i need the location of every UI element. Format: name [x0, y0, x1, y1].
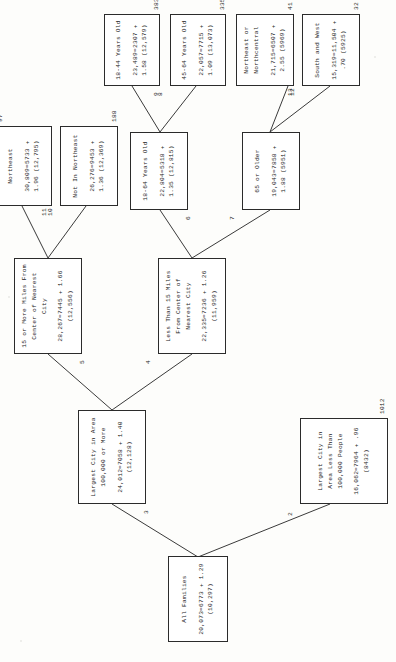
node-title: 65 or Older: [253, 149, 263, 193]
tree-node-45-64-years-old[interactable]: 45-64 Years Old 22,057=7715 + 1.09 (13,0…: [170, 14, 226, 86]
branch-number-7: 7: [230, 216, 236, 220]
node-stat: 26,276=9453 + 1.36 (12,369): [88, 131, 107, 201]
edge-7-13: [270, 86, 288, 132]
node-stat: 23,489=2307 + 1.58 (12,579): [131, 19, 150, 81]
rotated-diagram-wrapper: All Families 20,073=6773 + 1.29 (10,297)…: [0, 0, 396, 662]
node-title: Largest City in Area 100,000 or More: [89, 415, 108, 499]
tree-node-less-than-15-miles[interactable]: Less Than 15 Miles From Center of Neares…: [158, 258, 226, 354]
branch-number-13: 13: [288, 88, 294, 96]
count-label-13: 41: [288, 2, 294, 10]
node-title: Not In Northeast: [71, 134, 81, 197]
tree-node-18-44-years-old[interactable]: 18-44 Years Old 23,489=2307 + 1.58 (12,5…: [104, 14, 160, 86]
count-label-8: 335: [220, 0, 226, 10]
node-stat: 22,335=7236 + 1.26 (11,959): [200, 263, 219, 349]
count-label-2: 1012: [380, 398, 386, 414]
node-stat: 24,012=7058 + 1.40 (12,128): [116, 415, 135, 499]
branch-number-3: 3: [144, 510, 150, 514]
tree-node-largest-city-under-100k[interactable]: Largest City in Area Less Than 100,000 P…: [300, 418, 388, 504]
node-stat: 19,043=7858 + 1.88 (5951): [270, 137, 289, 205]
tree-node-northeast[interactable]: Northeast 30,809=5733 + 1.96 (12,795): [0, 126, 52, 206]
node-title: 45-64 Years Old: [180, 20, 190, 79]
edge-1-3: [112, 504, 198, 557]
branch-number-6: 6: [186, 216, 192, 220]
edge-7-12: [270, 86, 330, 132]
node-stat: 21,715=6507 + 2.55 (5969): [269, 19, 288, 81]
node-title: Less Than 15 Miles From Center of Neares…: [164, 263, 193, 349]
node-title: 18-44 Years Old: [114, 20, 124, 79]
tree-node-65-or-older[interactable]: 65 or Older 19,043=7858 + 1.88 (5951): [242, 132, 300, 210]
tree-node-18-64-years-old[interactable]: 18-64 Years Old 22,804=5318 + 1.35 (12,8…: [130, 132, 188, 210]
scan-speck: [8, 296, 10, 298]
tree-node-south-and-west[interactable]: South and West 15,319=11,504 + .70 (5925…: [302, 14, 360, 86]
node-title: 18-64 Years Old: [141, 141, 151, 200]
node-stat: 20,073=6773 + 1.29 (10,297): [197, 561, 216, 637]
count-label-12: 32: [354, 2, 360, 10]
node-title: All Families: [180, 575, 190, 623]
scan-speck: [20, 640, 22, 642]
branch-number-10: 10: [48, 208, 54, 216]
node-title: Northeast or Northcentral: [242, 19, 261, 81]
scan-speck: [374, 56, 376, 58]
edge-1-2: [198, 504, 330, 557]
count-label-10: 188: [112, 110, 118, 122]
node-stat: 28,267=7445 + 1.66 (12,556): [56, 263, 75, 349]
count-label-9: 383: [154, 0, 160, 10]
node-stat: 15,319=11,504 + .70 (5925): [330, 19, 349, 81]
branch-number-4: 4: [146, 360, 152, 364]
node-stat: 22,057=7715 + 1.09 (13,073): [197, 19, 216, 81]
tree-node-15-or-more-miles[interactable]: 15 or More Miles From Center of Nearest …: [14, 258, 82, 354]
node-title: Largest City in Area Less Than 100,000 P…: [316, 423, 345, 499]
count-label-11: 97: [0, 114, 4, 122]
branch-number-9: 9: [154, 92, 160, 96]
tree-node-northeast-or-northcentral[interactable]: Northeast or Northcentral 21,715=6507 + …: [236, 14, 294, 86]
node-title: Northeast: [6, 148, 16, 184]
page-canvas: All Families 20,073=6773 + 1.29 (10,297)…: [0, 0, 396, 662]
node-stat: 30,809=5733 + 1.96 (12,795): [23, 131, 42, 201]
tree-node-all-families[interactable]: All Families 20,073=6773 + 1.29 (10,297): [168, 556, 228, 642]
node-title: 15 or More Miles From Center of Nearest …: [20, 263, 49, 349]
branch-number-2: 2: [288, 512, 294, 516]
node-stat: 22,804=5318 + 1.35 (12,815): [158, 137, 177, 205]
node-title: South and West: [313, 22, 323, 77]
branch-number-11: 11: [42, 208, 48, 216]
edge-6-8: [160, 86, 196, 132]
branch-number-5: 5: [80, 360, 86, 364]
tree-node-not-in-northeast[interactable]: Not In Northeast 26,276=9453 + 1.36 (12,…: [60, 126, 118, 206]
tree-node-largest-city-100k-or-more[interactable]: Largest City in Area 100,000 or More 24,…: [78, 410, 146, 504]
tree-diagram: All Families 20,073=6773 + 1.29 (10,297)…: [0, 0, 396, 662]
node-stat: 16,062=7964 + .96 (8432): [352, 423, 371, 499]
